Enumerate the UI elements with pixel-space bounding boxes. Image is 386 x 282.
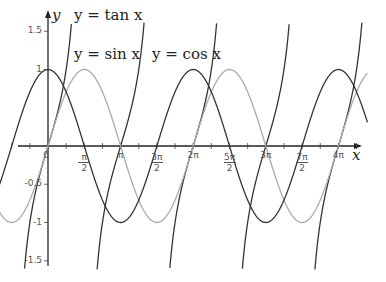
plot-area [0,0,386,282]
x-tick-label: 3π2 [147,152,167,173]
y-tick-label: -0.5 [18,178,42,188]
y-tick-label: 1.5 [18,25,42,35]
y-tick-label: 1 [18,64,42,74]
legend-sin: y = sin x [74,45,140,63]
legend-cos: y = cos x [152,45,221,63]
y-tick-label: -1 [18,217,42,227]
y-axis-label: y [52,6,60,24]
x-tick-label: π2 [74,152,94,173]
x-tick-label: 5π2 [220,152,240,173]
y-tick-label: -1.5 [18,255,42,265]
trig-chart: y = tan x y = sin x y = cos x y x 0π2π3π… [0,0,386,282]
x-tick-label: 4π [330,150,346,160]
x-axis-label: x [352,146,360,164]
y-axis-arrow-icon [45,10,51,18]
x-tick-label: 0 [38,150,54,160]
x-tick-label: 7π2 [292,152,312,173]
x-tick-label: 2π [185,150,201,160]
x-tick-label: π [113,150,129,160]
x-tick-label: 3π [258,150,274,160]
legend-tan: y = tan x [74,6,142,24]
